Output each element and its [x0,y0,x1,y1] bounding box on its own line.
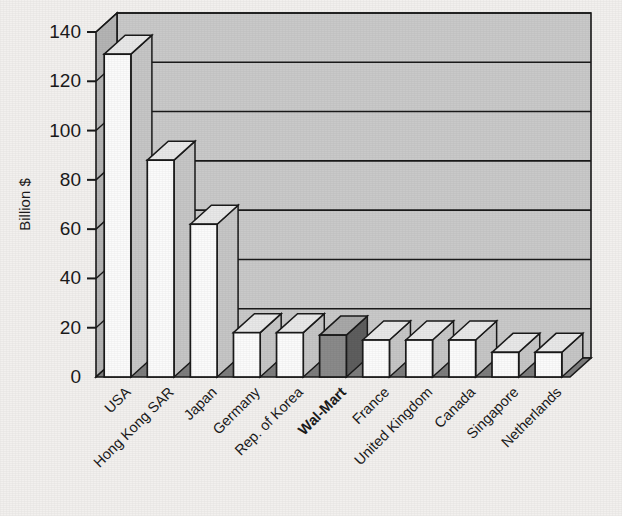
x-axis-label: USA [101,384,134,417]
bar-column [190,205,238,377]
bar-front-face [233,333,260,377]
x-axis-label-highlighted: Wal-Mart [295,384,349,438]
bar-front-face [492,352,519,377]
y-axis-tick-label: 120 [49,70,81,91]
y-axis-tick-label: 0 [70,366,81,387]
bar-front-face [190,224,217,377]
x-axis-label: Hong Kong SAR [90,384,177,471]
x-axis-label: Japan [181,384,220,423]
bar-front-face [449,340,476,377]
bar-front-face [104,54,131,377]
y-axis-title: Billion $ [16,178,33,231]
bar-front-face [406,340,433,377]
y-axis-tick-label: 100 [49,120,81,141]
bar-column [147,141,195,377]
y-axis-tick-label: 80 [60,169,81,190]
bar-front-face [363,340,390,377]
bar-front-face [535,352,562,377]
bar-front-face [320,335,347,377]
y-axis-tick-label: 40 [60,267,81,288]
y-axis-tick-label: 140 [49,21,81,42]
y-axis-tick-label: 60 [60,218,81,239]
bar-chart: 020406080100120140Billion $USAHong Kong … [0,0,622,516]
bar-column [104,35,152,377]
x-axis-label: France [349,384,392,427]
bar-front-face [147,160,174,377]
chart-canvas: 020406080100120140Billion $USAHong Kong … [0,0,622,516]
y-axis-tick-label: 20 [60,317,81,338]
x-axis-labels: USAHong Kong SARJapanGermanyRep. of Kore… [90,383,564,470]
x-axis-label: United Kingdom [351,384,435,468]
bar-front-face [277,333,304,377]
